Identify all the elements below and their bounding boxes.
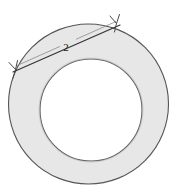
- annulus-diagram-svg: 2: [0, 0, 177, 195]
- geometry-figure: 2: [0, 0, 177, 195]
- chord-length-label: 2: [63, 41, 69, 53]
- inner-circle: [40, 59, 142, 161]
